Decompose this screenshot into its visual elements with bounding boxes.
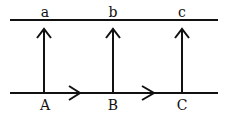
label-C: C (177, 97, 188, 113)
vertical-arrow-a (37, 29, 51, 93)
label-c: c (178, 4, 186, 20)
label-a: a (41, 4, 49, 20)
diagram: a b c A B C (0, 0, 226, 116)
label-b: b (109, 4, 118, 20)
vertical-arrow-c (175, 29, 189, 93)
vertical-arrow-b (106, 29, 120, 93)
label-A: A (39, 97, 51, 113)
label-B: B (108, 97, 118, 113)
